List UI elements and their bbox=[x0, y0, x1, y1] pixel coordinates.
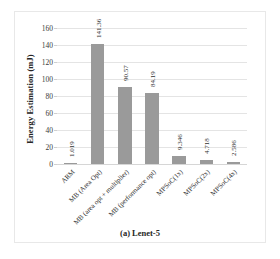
y-axis-tick bbox=[54, 79, 57, 80]
figure: Energy Estimation (mJ) 02040608010012014… bbox=[0, 0, 280, 259]
bar-value-label: 141.36 bbox=[95, 19, 103, 38]
gridline bbox=[57, 62, 247, 63]
bar-value-label: 9.346 bbox=[176, 134, 184, 150]
gridline bbox=[57, 28, 247, 29]
bar: 141.36 bbox=[91, 44, 105, 164]
bar-value-label: 4.718 bbox=[203, 138, 211, 154]
y-axis-tick bbox=[54, 62, 57, 63]
bar: 1.019 bbox=[64, 163, 78, 164]
y-axis-tick-label: 100 bbox=[42, 75, 53, 84]
bar-value-label: 84.19 bbox=[149, 71, 157, 87]
bar: 2.586 bbox=[227, 162, 241, 164]
bar-value-label: 90.57 bbox=[122, 66, 130, 82]
y-axis-tick bbox=[54, 96, 57, 97]
y-axis-tick bbox=[54, 113, 57, 114]
y-axis-tick-label: 140 bbox=[42, 41, 53, 50]
gridline bbox=[57, 45, 247, 46]
bar: 4.718 bbox=[200, 160, 214, 164]
bar-value-label: 2.586 bbox=[230, 140, 238, 156]
gridline bbox=[57, 164, 247, 165]
bar: 9.346 bbox=[172, 156, 186, 164]
y-axis-tick bbox=[54, 45, 57, 46]
bar: 84.19 bbox=[145, 93, 159, 164]
y-axis-tick bbox=[54, 147, 57, 148]
y-axis-tick-label: 60 bbox=[46, 109, 54, 118]
y-axis-tick-label: 40 bbox=[46, 126, 54, 135]
bar: 90.57 bbox=[118, 87, 132, 164]
y-axis-tick bbox=[54, 28, 57, 29]
y-axis-tick-label: 0 bbox=[49, 160, 53, 169]
y-axis-tick-label: 80 bbox=[46, 92, 54, 101]
bar-value-label: 1.019 bbox=[68, 141, 76, 157]
y-axis-tick bbox=[54, 130, 57, 131]
y-axis-tick bbox=[54, 164, 57, 165]
figure-caption: (a) Lenet-5 bbox=[0, 228, 280, 238]
y-axis-title: Energy Estimation (mJ) bbox=[25, 34, 39, 164]
y-axis-tick-label: 120 bbox=[42, 58, 53, 67]
plot-area: 0204060801001201401601.019ARM141.36MB (A… bbox=[57, 20, 247, 164]
y-axis-tick-label: 20 bbox=[46, 143, 54, 152]
y-axis-tick-label: 160 bbox=[42, 24, 53, 33]
